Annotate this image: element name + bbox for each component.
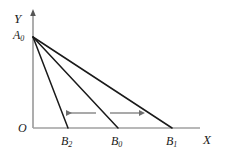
x-axis-label: X [203, 133, 211, 146]
point-label-b2-subscript: 2 [68, 140, 72, 149]
point-label-b1: B1 [166, 135, 177, 147]
origin-label: O [18, 122, 27, 134]
point-label-b2: B2 [61, 135, 72, 147]
y-axis-arrowhead-icon [30, 9, 36, 16]
point-label-b1-subscript: 1 [173, 140, 177, 149]
point-label-b0: B0 [111, 135, 122, 147]
budget-line-A0-B2 [33, 37, 68, 128]
budget-line-A0-B1 [33, 37, 172, 128]
y-axis [30, 9, 36, 128]
point-label-a0-subscript: 0 [20, 34, 24, 43]
budget-line-A0-B0 [33, 37, 118, 128]
y-axis-label: Y [14, 12, 21, 25]
budget-constraint-figure: Y X O A0 B2 B0 B1 [0, 0, 225, 163]
point-label-b0-subscript: 0 [118, 140, 122, 149]
point-label-a0: A0 [13, 29, 24, 41]
